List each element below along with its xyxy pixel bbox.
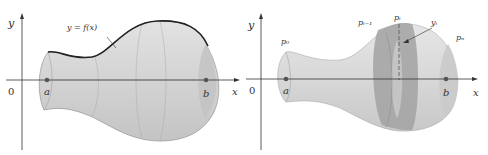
yi-label: yᵢ xyxy=(430,18,438,27)
pn-label: pₙ xyxy=(456,33,464,42)
point-a-label: a xyxy=(44,86,50,97)
diagram-canvas: y 0 a b x y = f(x) y 0 xyxy=(0,0,488,155)
y-axis-label: y xyxy=(7,17,15,30)
y-axis-label: y xyxy=(247,19,255,32)
curve-label: y = f(x) xyxy=(66,23,97,32)
point-b xyxy=(444,77,449,82)
p0-label: p₀ xyxy=(281,37,290,46)
solid-of-revolution xyxy=(278,24,458,131)
y-axis-arrow-icon xyxy=(20,13,24,19)
right-figure: y 0 a b x p₀ pᵢ₋₁ pᵢ pₙ yᵢ xyxy=(246,13,479,150)
x-axis-label: x xyxy=(473,87,479,98)
x-axis-arrow-icon xyxy=(472,77,478,81)
point-a-label: a xyxy=(283,85,289,96)
x-axis-label: x xyxy=(232,86,238,97)
pi-label: pᵢ xyxy=(394,13,401,22)
point-a xyxy=(45,78,50,83)
left-figure: y 0 a b x y = f(x) xyxy=(6,13,240,150)
pim1-label: pᵢ₋₁ xyxy=(358,18,372,27)
origin-label: 0 xyxy=(249,85,255,96)
origin-label: 0 xyxy=(8,86,14,97)
point-a xyxy=(284,77,289,82)
x-axis-arrow-icon xyxy=(234,78,240,82)
solid-of-revolution xyxy=(39,21,219,141)
point-b-label: b xyxy=(443,87,449,98)
point-b-label: b xyxy=(203,88,209,99)
point-b xyxy=(204,78,209,83)
y-axis-arrow-icon xyxy=(259,13,263,19)
